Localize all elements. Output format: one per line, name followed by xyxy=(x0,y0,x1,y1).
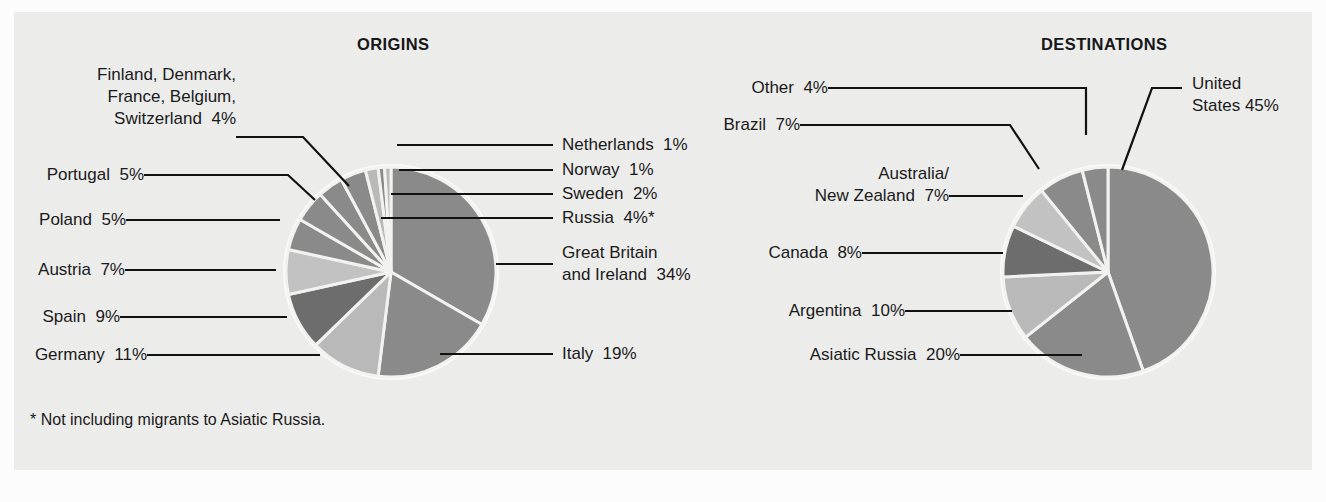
origins-label-nordic-group: Finland, Denmark, France, Belgium, Switz… xyxy=(36,64,236,130)
destinations-label-brazil: Brazil 7% xyxy=(700,114,800,136)
origins-label-portugal: Portugal 5% xyxy=(16,164,144,186)
destinations-label-australia-nz: Australia/ New Zealand 7% xyxy=(700,163,949,207)
origins-label-austria: Austria 7% xyxy=(16,259,125,281)
origins-title: ORIGINS xyxy=(357,35,429,54)
destinations-label-argentina: Argentina 10% xyxy=(700,300,905,322)
destinations-title: DESTINATIONS xyxy=(1041,35,1167,54)
origins-label-germany: Germany 11% xyxy=(16,344,147,366)
origins-footnote: * Not including migrants to Asiatic Russ… xyxy=(30,411,325,429)
origins-label-spain: Spain 9% xyxy=(16,306,120,328)
destinations-label-asiatic-russia: Asiatic Russia 20% xyxy=(700,344,960,366)
origins-label-poland: Poland 5% xyxy=(16,209,126,231)
origins-label-great-britain: Great Britain and Ireland 34% xyxy=(562,242,691,286)
destinations-label-canada: Canada 8% xyxy=(700,242,862,264)
origins-label-sweden: Sweden 2% xyxy=(562,183,657,205)
destinations-label-united-states: United States 45% xyxy=(1192,73,1279,117)
origins-label-netherlands: Netherlands 1% xyxy=(562,134,688,156)
origins-label-russia: Russia 4%* xyxy=(562,207,655,229)
migration-pie-figure: Great Britain and Ireland 34%Italy 19%Ge… xyxy=(0,0,1326,502)
origins-label-italy: Italy 19% xyxy=(562,343,637,365)
destinations-label-other: Other 4% xyxy=(700,77,828,99)
origins-label-norway: Norway 1% xyxy=(562,159,654,181)
